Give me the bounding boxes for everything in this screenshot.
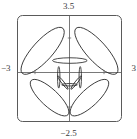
polar-curve-figure: 3.5 −2.5 −3 3 xyxy=(0,0,137,139)
x-axis-max-label: 3 xyxy=(132,64,137,73)
y-axis-max-label: 3.5 xyxy=(0,2,137,11)
plot-canvas xyxy=(0,0,137,139)
y-axis-min-label: −2.5 xyxy=(0,129,137,138)
x-axis-min-label: −3 xyxy=(1,64,11,73)
